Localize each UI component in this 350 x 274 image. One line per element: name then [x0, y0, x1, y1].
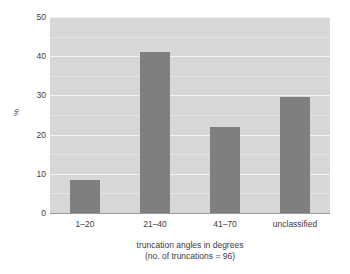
x-axis-caption-line1: truncation angles in degrees — [50, 240, 330, 251]
bar — [70, 180, 99, 213]
bar-chart-figure: % 01020304050 1–2021–4041–70unclassified… — [0, 0, 350, 274]
gridline-major — [50, 95, 330, 96]
bar — [280, 97, 309, 213]
x-axis-tick-label: 41–70 — [213, 219, 237, 229]
x-axis-line — [50, 213, 330, 214]
x-axis-caption: truncation angles in degrees (no. of tru… — [50, 240, 330, 261]
x-axis-tick-label: unclassified — [273, 219, 317, 229]
y-axis-label: % — [12, 103, 21, 123]
y-axis-tick-label: 50 — [24, 13, 46, 22]
plot-area — [50, 17, 330, 213]
y-axis-tick-label: 10 — [24, 170, 46, 179]
bar — [140, 52, 169, 213]
y-axis-tick-label: 40 — [24, 52, 46, 61]
gridline-minor — [50, 76, 330, 77]
bar — [210, 127, 239, 213]
y-axis-tick-label: 30 — [24, 91, 46, 100]
x-axis-tick-label: 1–20 — [76, 219, 95, 229]
x-axis-tick-labels: 1–2021–4041–70unclassified — [50, 219, 330, 233]
gridline-minor — [50, 37, 330, 38]
y-axis-tick-label: 20 — [24, 130, 46, 139]
y-axis-tick-labels: 01020304050 — [24, 17, 46, 213]
x-axis-caption-line2: (no. of truncations = 96) — [50, 251, 330, 262]
gridline-major — [50, 56, 330, 57]
y-axis-tick-label: 0 — [24, 209, 46, 218]
gridline-major — [50, 17, 330, 18]
x-axis-tick-label: 21–40 — [143, 219, 167, 229]
